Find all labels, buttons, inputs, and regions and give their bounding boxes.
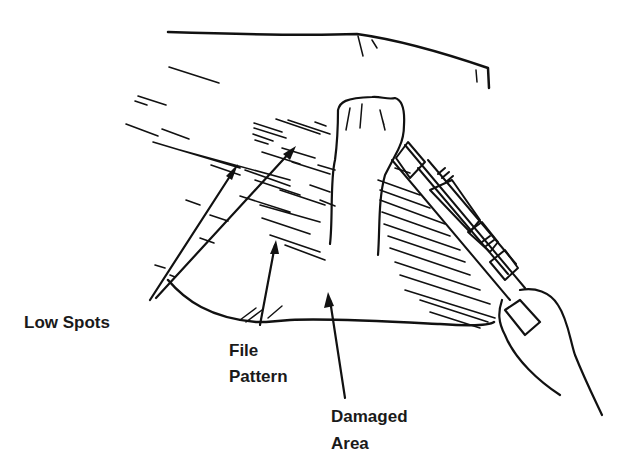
label-file-pattern-line2: Pattern <box>229 366 288 388</box>
damaged-area-hatch <box>378 168 495 328</box>
diagram-canvas: Low Spots File Pattern Damaged Area <box>0 0 632 476</box>
label-damaged-area-line2: Area <box>331 433 369 455</box>
right-hand <box>499 289 602 415</box>
label-damaged-area-line1: Damaged <box>331 406 408 428</box>
panel-top-edge <box>168 32 489 88</box>
label-low-spots: Low Spots <box>24 312 110 334</box>
left-hand-fist <box>330 97 404 255</box>
label-file-pattern-line1: File <box>229 340 258 362</box>
arrowhead-damaged-area <box>324 292 334 308</box>
file-pattern-arrow <box>260 245 275 325</box>
damaged-area-arrow <box>330 300 345 398</box>
body-file <box>392 142 525 300</box>
arrowhead-file-pattern <box>270 240 279 254</box>
line-drawing <box>0 0 632 476</box>
low-spots-arrows <box>150 150 292 300</box>
